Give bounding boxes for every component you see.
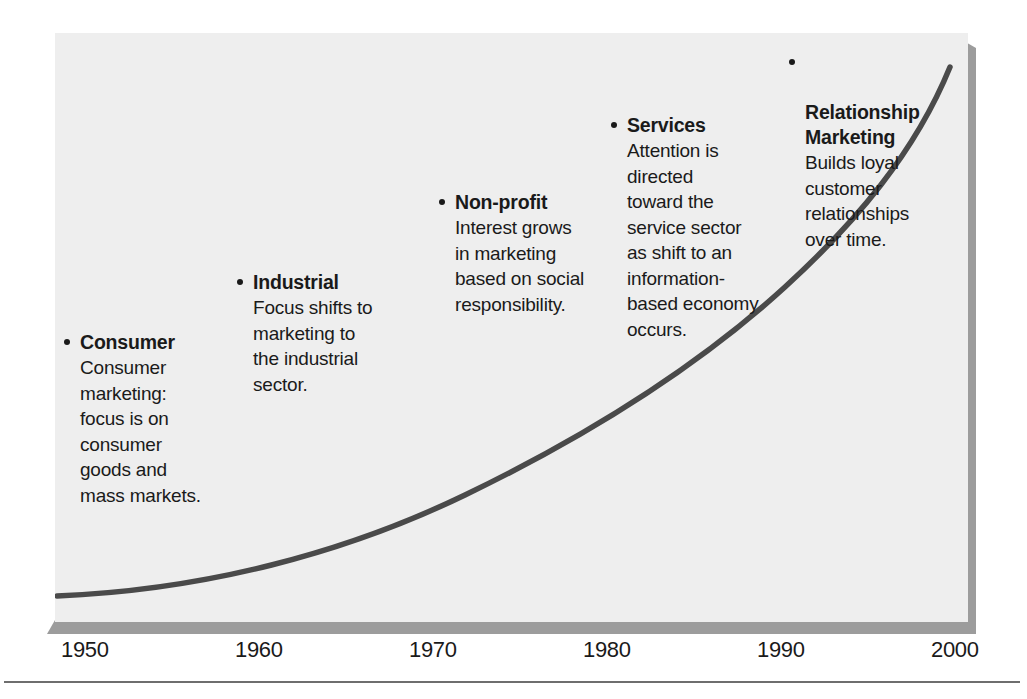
bullet-icon — [439, 199, 445, 205]
annotation-non-profit-heading-text: Non-profit — [455, 191, 547, 213]
annotation-services-body: Attention is directed toward the service… — [609, 138, 794, 342]
x-tick-1980: 1980 — [583, 636, 631, 664]
annotation-relationship-marketing-heading-text: Relationship Marketing — [805, 101, 920, 148]
annotation-relationship-marketing-heading: Relationship Marketing — [787, 50, 952, 150]
annotation-services-heading: Services — [609, 113, 794, 138]
bullet-icon — [611, 122, 617, 128]
marketing-eras-timeline-figure: Consumer Consumer marketing: focus is on… — [0, 0, 1027, 699]
annotation-services-heading-text: Services — [627, 114, 706, 136]
annotation-non-profit-heading: Non-profit — [437, 190, 622, 215]
annotation-consumer: Consumer Consumer marketing: focus is on… — [62, 330, 242, 508]
annotation-industrial-body: Focus shifts to marketing to the industr… — [235, 295, 415, 397]
annotation-industrial-heading: Industrial — [235, 270, 415, 295]
annotation-consumer-heading-text: Consumer — [80, 331, 175, 353]
x-tick-2000: 2000 — [931, 636, 979, 664]
annotation-consumer-heading: Consumer — [62, 330, 242, 355]
x-tick-1950: 1950 — [61, 636, 109, 664]
annotation-industrial-heading-text: Industrial — [253, 271, 339, 293]
x-tick-1990: 1990 — [757, 636, 805, 664]
annotation-consumer-body: Consumer marketing: focus is on consumer… — [62, 355, 242, 508]
annotation-relationship-marketing: Relationship Marketing Builds loyal cust… — [787, 50, 952, 252]
x-tick-1970: 1970 — [409, 636, 457, 664]
bullet-icon — [237, 279, 243, 285]
annotation-industrial: Industrial Focus shifts to marketing to … — [235, 270, 415, 397]
panel-bottom-bevel-shadow — [47, 620, 976, 634]
bullet-icon — [789, 59, 795, 65]
annotation-relationship-marketing-body: Builds loyal customer relationships over… — [787, 150, 952, 252]
x-axis-tick-labels: 1950 1960 1970 1980 1990 2000 — [0, 636, 1027, 666]
annotation-non-profit-body: Interest grows in marketing based on soc… — [437, 215, 622, 317]
x-tick-1960: 1960 — [235, 636, 283, 664]
bullet-icon — [64, 339, 70, 345]
annotation-non-profit: Non-profit Interest grows in marketing b… — [437, 190, 622, 317]
annotation-services: Services Attention is directed toward th… — [609, 113, 794, 342]
bottom-divider-rule — [4, 681, 1020, 683]
